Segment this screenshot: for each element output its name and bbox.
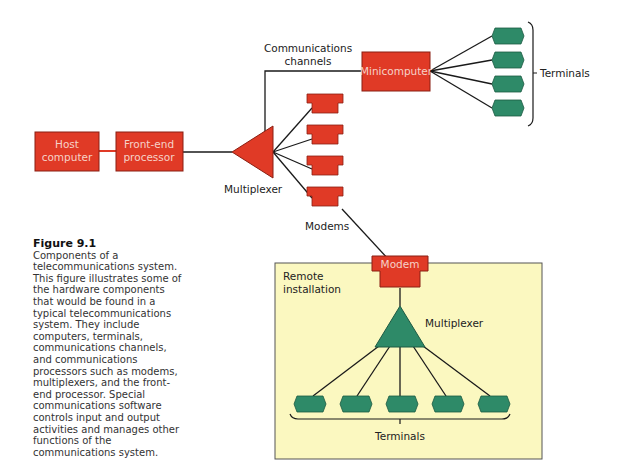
modems-group	[307, 94, 343, 206]
terminal-icon	[492, 52, 524, 68]
minicomputer-label: Minicomputer	[360, 65, 433, 77]
front-end-processor: Front-end processor	[116, 132, 183, 171]
modem-icon	[307, 125, 343, 144]
remote-installation-label-line1: Remote	[283, 270, 324, 282]
terminal-icon	[294, 396, 326, 412]
modem-icon	[307, 156, 343, 175]
remote-modem-label: Modem	[381, 258, 420, 270]
remote-multiplexer-label: Multiplexer	[425, 317, 484, 329]
comm-channels-label-line2: channels	[284, 55, 331, 67]
modems-label: Modems	[305, 220, 349, 232]
front-end-label-line2: processor	[123, 151, 175, 163]
terminals-top-label: Terminals	[539, 67, 590, 79]
multiplexer-label: Multiplexer	[224, 183, 283, 195]
figure-caption: Figure 9.1 Components of a telecommunica…	[33, 238, 183, 458]
terminal-icon	[432, 396, 464, 412]
host-computer-label-line1: Host	[55, 138, 79, 150]
front-end-label-line1: Front-end	[124, 138, 174, 150]
terminal-icon	[340, 396, 372, 412]
remote-modem: Modem	[372, 256, 428, 287]
minicomputer: Minicomputer	[360, 52, 433, 91]
host-computer: Host computer	[35, 132, 99, 171]
comm-channels-label-line1: Communications	[264, 42, 352, 54]
remote-installation-label-line2: installation	[283, 283, 341, 295]
multiplexer-triangle-icon	[232, 126, 273, 178]
figure-number: Figure 9.1	[33, 238, 183, 250]
terminals-bottom-label: Terminals	[374, 430, 425, 442]
terminal-icon	[492, 100, 524, 116]
terminal-icon	[492, 76, 524, 92]
modem-icon	[307, 187, 343, 206]
terminal-icon	[492, 28, 524, 44]
figure-caption-text: Components of a telecommunications syste…	[33, 250, 181, 458]
terminal-icon	[478, 396, 510, 412]
host-computer-label-line2: computer	[42, 151, 93, 163]
terminal-icon	[386, 396, 418, 412]
modem-icon	[307, 94, 343, 113]
top-terminals-group	[492, 28, 524, 116]
top-terminals-bracket	[528, 22, 537, 126]
